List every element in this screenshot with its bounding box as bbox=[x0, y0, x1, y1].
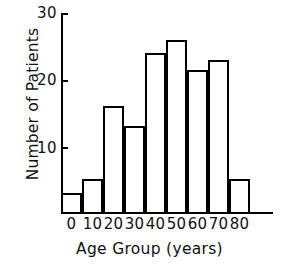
y-tick-mark-10 bbox=[61, 147, 68, 149]
bar-age-40 bbox=[145, 53, 166, 213]
y-tick-label-20: 20 bbox=[33, 73, 57, 88]
bar-age-30 bbox=[124, 126, 145, 212]
bar-age-10 bbox=[82, 179, 103, 212]
x-tick-label-10: 10 bbox=[82, 217, 103, 232]
bar-age-80 bbox=[229, 179, 250, 212]
x-tick-label-50: 50 bbox=[166, 217, 187, 232]
y-tick-mark-20 bbox=[61, 80, 68, 82]
bar-age-20 bbox=[103, 106, 124, 212]
x-tick-label-30: 30 bbox=[124, 217, 145, 232]
y-tick-mark-30 bbox=[61, 13, 68, 15]
y-tick-label-30: 30 bbox=[33, 6, 57, 21]
x-tick-label-70: 70 bbox=[208, 217, 229, 232]
y-axis-title: Number of Patients bbox=[24, 19, 42, 189]
x-tick-label-60: 60 bbox=[187, 217, 208, 232]
histogram-figure: Number of Patients 30 20 10 0 10 20 30 4… bbox=[0, 0, 299, 265]
x-tick-label-80: 80 bbox=[229, 217, 250, 232]
bar-age-70 bbox=[208, 60, 229, 213]
bar-age-50 bbox=[166, 40, 187, 213]
y-tick-label-10: 10 bbox=[33, 141, 57, 156]
bar-age-60 bbox=[187, 70, 208, 213]
x-tick-label-0: 0 bbox=[61, 217, 82, 232]
x-tick-label-40: 40 bbox=[145, 217, 166, 232]
x-axis-title: Age Group (years) bbox=[0, 240, 299, 258]
bar-age-0 bbox=[61, 193, 82, 213]
x-tick-label-20: 20 bbox=[103, 217, 124, 232]
x-axis-spine bbox=[61, 212, 273, 214]
y-axis-spine bbox=[61, 13, 63, 214]
